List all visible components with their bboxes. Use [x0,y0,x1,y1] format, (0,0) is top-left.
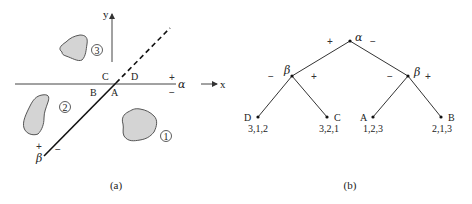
right-beta-node [406,74,409,77]
leaf-c-node [325,115,328,118]
root-node-label: α [355,31,363,44]
root-minus-sign: − [370,36,376,47]
beta-line-label: β [35,152,42,165]
right-beta-node-label: β [413,66,420,79]
beta-minus-sign: − [55,144,61,155]
left-beta-node-label: β [283,64,290,77]
quadrant-label-b: B [90,87,97,98]
alpha-plus-sign: + [169,72,175,83]
leaf-d-label: D [244,112,251,123]
beta-line-dashed [116,28,170,83]
quadrant-label-d: D [131,71,138,82]
edge-root-right [350,41,408,76]
edge-root-left [292,41,350,76]
region-1-label: 1 [164,131,169,142]
figure-canvas: y + − α x + − β C D B A 3 2 1 (a) [0,0,472,204]
leaf-b-node [439,115,442,118]
caption-a: (a) [110,179,123,192]
alpha-line-label: α [178,78,186,91]
region-3-label: 3 [95,45,100,56]
region-1 [122,109,156,141]
left-beta-node [290,74,293,77]
right-beta-minus-sign: − [387,71,393,82]
root-plus-sign: + [327,36,333,47]
figure-a: y + − α x + − β C D B A 3 2 1 (a) [15,8,226,192]
alpha-minus-sign: − [169,87,175,98]
root-node [348,39,351,42]
caption-b: (b) [344,179,357,192]
region-2-label: 2 [63,102,68,113]
leaf-c-order: 3,2,1 [319,123,339,134]
edge-left-c [292,76,327,117]
quadrant-label-a: A [111,87,119,98]
leaf-b-label: B [448,112,455,123]
leaf-b-order: 2,1,3 [432,123,452,134]
right-beta-plus-sign: + [425,71,431,82]
leaf-a-node [371,115,374,118]
left-beta-minus-sign: − [268,71,274,82]
quadrant-label-c: C [102,71,109,82]
leaf-c-label: C [334,112,341,123]
edge-right-a [373,76,408,117]
left-beta-plus-sign: + [311,71,317,82]
beta-plus-sign: + [36,141,42,152]
leaf-d-order: 3,1,2 [248,123,268,134]
edge-right-b [408,76,441,117]
region-2 [23,95,48,135]
figure-b: α + − β − + β − + D 3,1,2 C 3,2,1 A 1,2,… [244,31,455,192]
leaf-a-order: 1,2,3 [363,123,383,134]
leaf-a-label: A [360,112,368,123]
x-axis-label: x [220,78,226,90]
edge-left-d [258,76,292,117]
y-axis-label: y [103,8,109,20]
leaf-d-node [256,115,259,118]
region-3 [60,35,87,61]
